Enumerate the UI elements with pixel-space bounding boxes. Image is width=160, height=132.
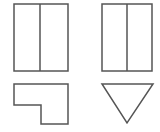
top-view: [14, 84, 68, 124]
triangle-view: [102, 84, 153, 123]
three-view-diagram: [0, 0, 160, 132]
front-view-outline: [14, 4, 68, 71]
l-shape-outline: [14, 84, 68, 124]
inverted-triangle-outline: [102, 84, 153, 123]
side-view: [102, 4, 152, 71]
front-view: [14, 4, 68, 71]
